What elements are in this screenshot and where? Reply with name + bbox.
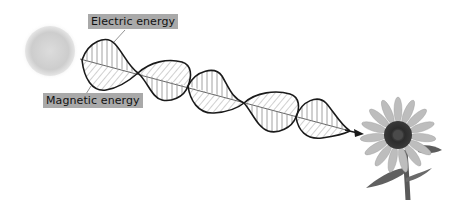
sun-icon [21, 22, 79, 80]
sunflower-icon [360, 97, 442, 200]
em-wave [80, 30, 364, 138]
em-wave-diagram: Electric energy Magnetic energy [0, 0, 469, 213]
electric-energy-label: Electric energy [88, 14, 178, 29]
arrow-head-icon [354, 129, 364, 137]
magnetic-energy-label: Magnetic energy [43, 93, 143, 108]
